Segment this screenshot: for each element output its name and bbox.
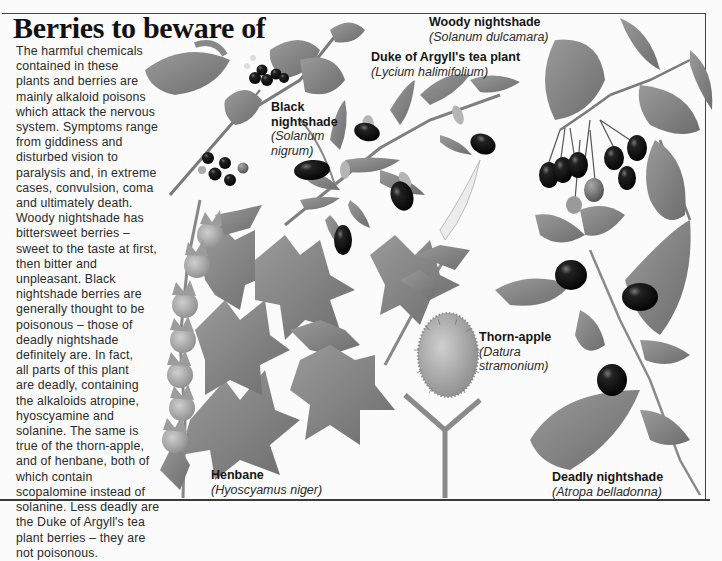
- body-line: then bitter and: [16, 257, 206, 272]
- body-text: The harmful chemicals contained in these…: [16, 44, 206, 561]
- body-line: are deadly, containing: [16, 378, 206, 393]
- body-line: deadly nightshade: [16, 333, 206, 348]
- body-line: and of henbane, both of: [16, 454, 206, 469]
- body-line: hyoscyamine and: [16, 409, 206, 424]
- common-name: Woody nightshade: [429, 15, 549, 30]
- label-deadly-nightshade: Deadly nightshade (Atropa belladonna): [552, 470, 663, 499]
- body-line: from giddiness and: [16, 135, 206, 150]
- latin-name: stramonium): [479, 359, 551, 374]
- body-line: contained in these: [16, 59, 206, 74]
- body-line: The harmful chemicals: [16, 44, 206, 59]
- body-line: mainly alkaloid poisons: [16, 90, 206, 105]
- body-line: scopalomine instead of: [16, 485, 206, 500]
- label-henbane: Henbane (Hyoscyamus niger): [211, 468, 322, 497]
- body-line: sweet to the taste at first,: [16, 242, 206, 257]
- body-line: cases, convulsion, coma: [16, 181, 206, 196]
- body-line: nightshade berries are: [16, 287, 206, 302]
- body-line: system. Symptoms range: [16, 120, 206, 135]
- common-name: Thorn-apple: [479, 330, 551, 345]
- body-line: which contain: [16, 470, 206, 485]
- latin-name: (Solanum: [271, 129, 338, 144]
- label-black-nightshade: Black nightshade (Solanum nigrum): [271, 100, 338, 158]
- body-line: Woody nightshade has: [16, 211, 206, 226]
- page-title: Berries to beware of: [13, 13, 266, 43]
- body-line: the alkaloids atropine,: [16, 394, 206, 409]
- body-line: bittersweet berries –: [16, 226, 206, 241]
- latin-name: (Atropa belladonna): [552, 485, 663, 500]
- label-woody-nightshade: Woody nightshade (Solanum dulcamara): [429, 15, 549, 44]
- common-name: Henbane: [211, 468, 322, 483]
- body-line: true of the thorn-apple,: [16, 439, 206, 454]
- body-line: which attack the nervous: [16, 105, 206, 120]
- label-duke-of-argylls-tea-plant: Duke of Argyll's tea plant (Lycium halim…: [371, 50, 520, 79]
- body-line: generally thought to be: [16, 302, 206, 317]
- label-thorn-apple: Thorn-apple (Datura stramonium): [479, 330, 551, 374]
- latin-name: (Solanum dulcamara): [429, 30, 549, 45]
- body-line: and ultimately death.: [16, 196, 206, 211]
- body-line: not poisonous.: [16, 546, 206, 561]
- common-name: Duke of Argyll's tea plant: [371, 50, 520, 65]
- body-line: all parts of this plant: [16, 363, 206, 378]
- common-name: Black: [271, 100, 338, 115]
- body-line: poisonous – those of: [16, 318, 206, 333]
- body-line: the Duke of Argyll's tea: [16, 515, 206, 530]
- latin-name: (Hyoscyamus niger): [211, 483, 322, 498]
- body-line: plant berries – they are: [16, 531, 206, 546]
- common-name: Deadly nightshade: [552, 470, 663, 485]
- body-line: definitely are. In fact,: [16, 348, 206, 363]
- woody-nightshade-illustration: [539, 18, 712, 220]
- body-line: unpleasant. Black: [16, 272, 206, 287]
- thorn-apple-illustration: [255, 160, 481, 498]
- body-line: solanine. The same is: [16, 424, 206, 439]
- body-line: plants and berries are: [16, 74, 206, 89]
- latin-name: (Lycium halimifolium): [371, 65, 520, 80]
- latin-name: (Datura: [479, 345, 551, 360]
- body-line: disturbed vision to: [16, 150, 206, 165]
- common-name: nightshade: [271, 115, 338, 130]
- body-line: solanine. Less deadly are: [16, 500, 206, 515]
- latin-name: nigrum): [271, 144, 338, 159]
- body-line: paralysis and, in extreme: [16, 166, 206, 181]
